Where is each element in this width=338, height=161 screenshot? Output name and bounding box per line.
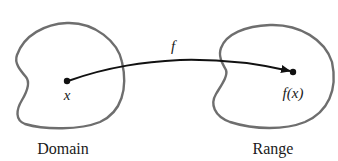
function-mapping-diagram: x f(x) f Domain Range	[0, 0, 338, 161]
range-point	[290, 69, 296, 75]
range-label: Range	[253, 140, 294, 158]
range-set-outline	[213, 25, 333, 128]
domain-label: Domain	[37, 140, 89, 157]
point-fx-label: f(x)	[283, 85, 304, 102]
function-arrow	[68, 60, 290, 81]
domain-point	[64, 78, 70, 84]
function-label: f	[171, 38, 177, 54]
domain-set-outline	[16, 23, 124, 128]
point-x-label: x	[63, 87, 71, 103]
